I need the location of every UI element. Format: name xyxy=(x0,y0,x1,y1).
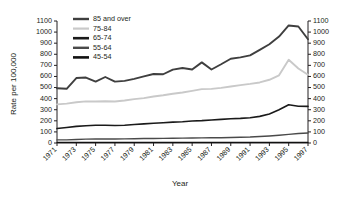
series-line-65-74 xyxy=(57,105,308,129)
y-axis-right-tick-label: 800 xyxy=(313,49,325,58)
y-axis-tick-label: 700 xyxy=(40,60,52,69)
chart-container: 010020030040050060070080090010001100 010… xyxy=(0,0,350,199)
series-line-55-64 xyxy=(57,133,308,140)
y-axis-tick-label: 100 xyxy=(40,127,52,136)
x-axis-tick-label: 1979 xyxy=(118,145,136,163)
x-axis-tick-label: 1987 xyxy=(195,145,213,163)
y-axis-left: 010020030040050060070080090010001100 xyxy=(36,16,57,147)
line-chart: 010020030040050060070080090010001100 010… xyxy=(0,0,350,199)
x-axis: 1971197319751977197919811983198519871989… xyxy=(41,143,310,163)
x-axis-tick-label: 1983 xyxy=(157,145,175,163)
x-axis-tick-label: 1995 xyxy=(272,145,290,163)
y-axis-right-tick-label: 1100 xyxy=(313,16,328,25)
y-axis-tick-label: 300 xyxy=(40,105,52,114)
y-axis-right-tick-label: 0 xyxy=(313,138,317,147)
y-axis-right-tick-label: 900 xyxy=(313,38,325,47)
chart-legend: 85 and over75-8465-7455-6445-54 xyxy=(73,14,132,61)
x-axis-tick-label: 1977 xyxy=(99,145,117,163)
y-axis-right-tick-label: 200 xyxy=(313,116,325,125)
x-axis-tick-label: 1993 xyxy=(253,145,271,163)
y-axis-tick-label: 200 xyxy=(40,116,52,125)
x-axis-tick-label: 1997 xyxy=(292,145,310,163)
x-axis-tick-label: 1975 xyxy=(79,145,97,163)
x-axis-title: Year xyxy=(172,179,189,188)
y-axis-tick-label: 900 xyxy=(40,38,52,47)
y-axis-tick-label: 400 xyxy=(40,94,52,103)
y-axis-right-tick-label: 600 xyxy=(313,71,325,80)
y-axis-tick-label: 600 xyxy=(40,71,52,80)
x-axis-tick-label: 1991 xyxy=(234,145,252,163)
y-axis-tick-label: 1000 xyxy=(36,27,52,36)
x-axis-tick-label: 1985 xyxy=(176,145,194,163)
x-axis-tick-label: 1989 xyxy=(215,145,233,163)
legend-label-4: 45-54 xyxy=(93,52,111,61)
legend-label-1: 75-84 xyxy=(93,24,111,33)
x-axis-tick-label: 1971 xyxy=(41,145,59,163)
y-axis-tick-label: 500 xyxy=(40,82,52,91)
legend-label-3: 55-64 xyxy=(93,43,111,52)
y-axis-tick-label: 800 xyxy=(40,49,52,58)
y-axis-right-tick-label: 700 xyxy=(313,60,325,69)
y-axis-right: 010020030040050060070080090010001100 xyxy=(308,16,329,147)
legend-label-0: 85 and over xyxy=(93,14,132,23)
y-axis-right-tick-label: 400 xyxy=(313,94,325,103)
y-axis-tick-label: 1100 xyxy=(37,16,52,25)
legend-label-2: 65-74 xyxy=(93,33,111,42)
y-axis-right-tick-label: 500 xyxy=(313,82,325,91)
y-axis-right-tick-label: 1000 xyxy=(313,27,329,36)
y-axis-right-tick-label: 300 xyxy=(313,105,325,114)
y-axis-right-tick-label: 100 xyxy=(313,127,325,136)
y-axis-title: Rate per 100,000 xyxy=(9,53,18,115)
x-axis-tick-label: 1973 xyxy=(60,145,78,163)
x-axis-tick-label: 1981 xyxy=(137,145,155,163)
